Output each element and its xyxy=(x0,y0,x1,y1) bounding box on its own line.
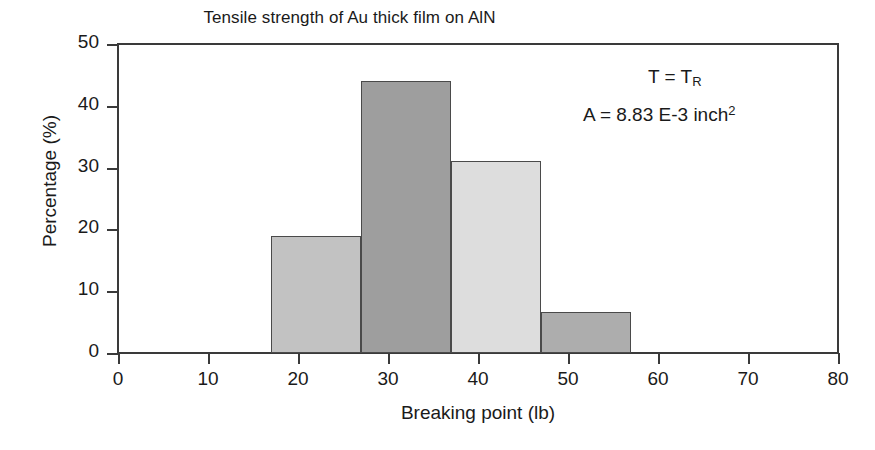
y-tick-mark xyxy=(107,168,118,170)
x-tick-label: 80 xyxy=(808,368,868,390)
x-tick-mark xyxy=(208,353,210,364)
y-tick-mark xyxy=(107,106,118,108)
y-tick-mark xyxy=(107,353,118,355)
histogram-bar xyxy=(361,81,451,353)
x-tick-mark xyxy=(838,353,840,364)
y-tick-label: 0 xyxy=(47,340,99,362)
annotation-area: A = 8.83 E-3 inch2 xyxy=(583,103,735,126)
x-tick-label: 70 xyxy=(718,368,778,390)
x-tick-mark xyxy=(748,353,750,364)
y-axis-label: Percentage (%) xyxy=(39,51,61,311)
histogram-figure: Tensile strength of Au thick film on AlN… xyxy=(0,0,875,450)
x-tick-label: 20 xyxy=(268,368,328,390)
x-tick-mark xyxy=(388,353,390,364)
annotation-temperature: T = TR xyxy=(648,66,702,89)
x-tick-mark xyxy=(118,353,120,364)
y-tick-mark xyxy=(107,44,118,46)
histogram-bar xyxy=(541,312,631,353)
x-tick-label: 0 xyxy=(88,368,148,390)
x-tick-label: 10 xyxy=(178,368,238,390)
y-tick-mark xyxy=(107,229,118,231)
chart-title: Tensile strength of Au thick film on AlN xyxy=(0,8,875,28)
plot-area xyxy=(118,44,838,353)
chart-title-text: Tensile strength of Au thick film on AlN xyxy=(203,8,495,27)
x-tick-mark xyxy=(568,353,570,364)
x-tick-mark xyxy=(658,353,660,364)
histogram-bar xyxy=(271,236,361,353)
y-tick-label: 50 xyxy=(47,31,99,53)
x-tick-label: 40 xyxy=(448,368,508,390)
x-tick-label: 50 xyxy=(538,368,598,390)
x-tick-mark xyxy=(298,353,300,364)
x-axis-label: Breaking point (lb) xyxy=(118,402,838,424)
y-tick-mark xyxy=(107,291,118,293)
x-tick-mark xyxy=(478,353,480,364)
x-tick-label: 30 xyxy=(358,368,418,390)
x-tick-label: 60 xyxy=(628,368,688,390)
histogram-bar xyxy=(451,161,541,353)
